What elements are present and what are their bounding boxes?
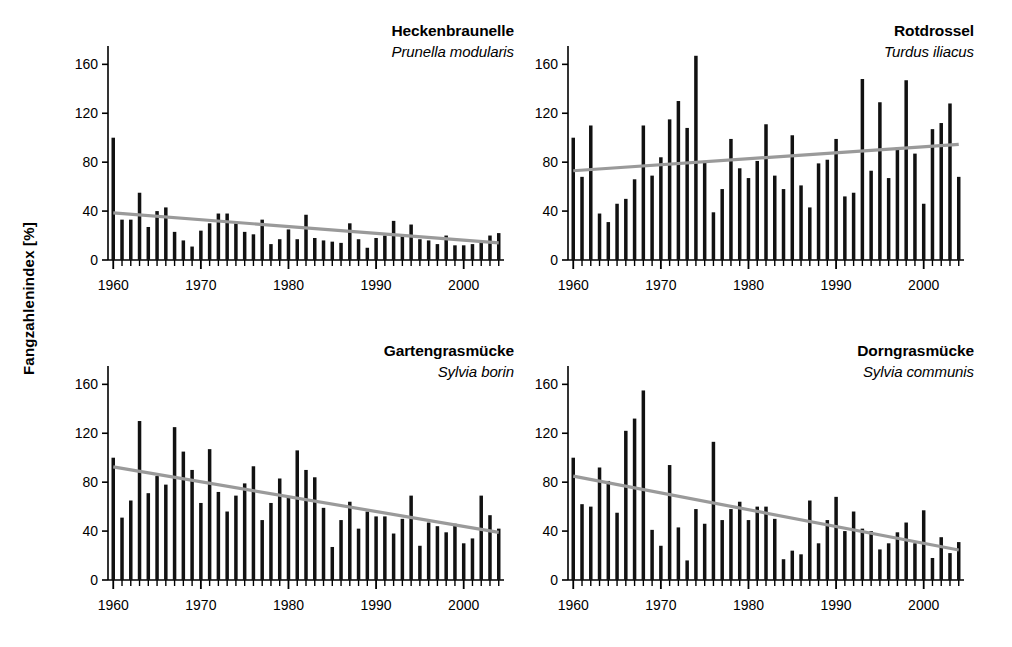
bar	[747, 178, 751, 260]
bar	[799, 554, 803, 580]
bar	[409, 496, 413, 580]
bar	[834, 139, 838, 260]
y-tick-label: 40	[82, 203, 98, 219]
bar	[182, 452, 186, 580]
bar	[287, 229, 291, 260]
bar	[462, 543, 466, 580]
bar	[304, 215, 308, 260]
bar	[598, 468, 602, 581]
bar	[357, 529, 361, 580]
bar	[173, 232, 177, 260]
y-tick-label: 40	[82, 523, 98, 539]
plot-area: 0408012016019601970198019902000	[60, 342, 520, 642]
bar	[738, 168, 742, 260]
bar	[243, 483, 247, 580]
bar	[147, 493, 151, 580]
x-tick-label: 2000	[908, 597, 939, 613]
y-tick-label: 120	[75, 105, 99, 121]
bar	[383, 516, 387, 580]
bar	[147, 227, 151, 260]
y-tick-label: 120	[535, 425, 559, 441]
bar	[260, 520, 264, 580]
bar	[339, 520, 343, 580]
bar	[843, 531, 847, 580]
bar	[572, 138, 576, 260]
bar	[852, 512, 856, 580]
y-tick-label: 40	[542, 523, 558, 539]
bar	[931, 129, 935, 260]
figure-root: Fangzahlenindex [%] 04080120160196019701…	[0, 0, 1012, 647]
x-tick-label: 1990	[821, 597, 852, 613]
bar	[948, 103, 952, 260]
bar	[488, 515, 492, 580]
x-tick-label: 1980	[273, 597, 304, 613]
bar	[444, 532, 448, 580]
panel-subtitle: Prunella modularis	[392, 43, 514, 60]
bar	[720, 189, 724, 260]
bar	[322, 240, 326, 260]
bar	[357, 239, 361, 260]
bar	[313, 238, 317, 260]
y-axis-label: Fangzahlenindex [%]	[20, 169, 37, 429]
bar	[138, 193, 142, 260]
bar	[427, 240, 431, 260]
bar	[164, 485, 168, 580]
x-tick-label: 1970	[185, 597, 216, 613]
x-tick-label: 1980	[273, 277, 304, 293]
bar	[720, 520, 724, 580]
bar	[208, 449, 212, 580]
bar	[471, 244, 475, 260]
bar	[799, 185, 803, 260]
bar	[642, 125, 646, 260]
bar	[878, 549, 882, 580]
bar	[199, 231, 203, 260]
bar	[887, 178, 891, 260]
bar	[488, 236, 492, 260]
bar	[453, 524, 457, 580]
x-tick-label: 1990	[361, 597, 392, 613]
bar	[304, 470, 308, 580]
bar	[155, 476, 159, 580]
bar	[773, 176, 777, 260]
bar	[112, 138, 116, 260]
bar	[685, 560, 689, 580]
bar	[383, 236, 387, 260]
bar	[409, 225, 413, 260]
bar	[668, 465, 672, 580]
bar	[808, 207, 812, 260]
bar	[922, 204, 926, 260]
y-tick-label: 160	[75, 56, 99, 72]
bar	[129, 501, 133, 580]
bar	[497, 233, 501, 260]
bar	[479, 240, 483, 260]
bar	[138, 421, 142, 580]
bar	[252, 466, 256, 580]
bar	[817, 163, 821, 260]
bar	[339, 243, 343, 260]
bar	[615, 513, 619, 580]
x-tick-label: 1970	[645, 597, 676, 613]
y-tick-label: 80	[82, 474, 98, 490]
bar	[913, 543, 917, 580]
bar	[834, 497, 838, 580]
x-tick-label: 1970	[185, 277, 216, 293]
panel-title: Dorngrasmücke	[857, 342, 974, 360]
bar	[225, 512, 229, 580]
x-tick-label: 1980	[733, 277, 764, 293]
y-tick-label: 40	[542, 203, 558, 219]
y-tick-label: 160	[535, 376, 559, 392]
bar	[703, 524, 707, 580]
bar	[878, 102, 882, 260]
panel-rotdrossel: 0408012016019601970198019902000 Rotdross…	[520, 22, 980, 322]
bar	[712, 442, 716, 580]
x-tick-label: 2000	[448, 597, 479, 613]
x-tick-label: 2000	[448, 277, 479, 293]
bar	[208, 223, 212, 260]
panel-heckenbraunelle: 0408012016019601970198019902000 Heckenbr…	[60, 22, 520, 322]
bar	[931, 558, 935, 580]
bar	[729, 139, 733, 260]
panel-dorngrasmuecke: 0408012016019601970198019902000 Dorngras…	[520, 342, 980, 642]
bar	[269, 244, 273, 260]
panel-title: Heckenbraunelle	[391, 22, 514, 40]
bar	[392, 221, 396, 260]
